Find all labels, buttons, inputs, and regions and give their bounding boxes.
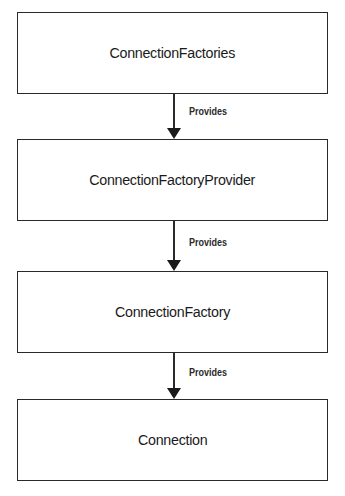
node-connection-factory: ConnectionFactory [17, 271, 328, 353]
node-label: ConnectionFactoryProvider [90, 171, 256, 189]
node-label: Connection [138, 431, 207, 449]
arrow-down-icon [167, 260, 181, 271]
arrow-down-icon [167, 128, 181, 139]
node-connection: Connection [17, 399, 328, 481]
edge-line [173, 353, 175, 389]
node-label: ConnectionFactories [110, 44, 236, 62]
edge-label: Provides [189, 237, 227, 248]
node-connection-factory-provider: ConnectionFactoryProvider [17, 139, 328, 221]
node-label: ConnectionFactory [115, 303, 230, 321]
arrow-down-icon [167, 388, 181, 399]
edge-label: Provides [189, 367, 227, 378]
node-connection-factories: ConnectionFactories [17, 12, 328, 94]
edge-line [173, 221, 175, 260]
edge-label: Provides [189, 106, 227, 117]
edge-line [173, 94, 175, 129]
